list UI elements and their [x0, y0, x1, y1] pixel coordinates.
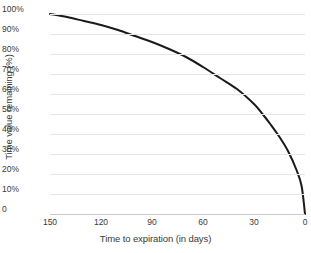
gridline-70: [50, 74, 305, 75]
gridline-60: [50, 94, 305, 95]
x-tick-label-90: 90: [132, 216, 172, 228]
gridline-20: [50, 174, 305, 175]
x-tick-label-60: 60: [183, 216, 223, 228]
gridline-0: [50, 214, 305, 215]
x-axis-tick-labels: 1501209060300: [0, 216, 311, 230]
chart-container: Time value remaining (%) 100%90%80%70%60…: [0, 0, 311, 253]
x-tick-label-0: 0: [285, 216, 311, 228]
x-tick-label-120: 120: [81, 216, 121, 228]
gridline-30: [50, 154, 305, 155]
y-tick-label-40: 40%: [2, 124, 48, 134]
y-tick-label-70: 70%: [2, 64, 48, 74]
y-tick-label-50: 50%: [2, 104, 48, 114]
plot-area: [50, 14, 305, 214]
y-tick-label-30: 30%: [2, 144, 48, 154]
gridline-100: [50, 14, 305, 15]
gridline-90: [50, 34, 305, 35]
y-tick-label-100: 100%: [2, 4, 48, 14]
y-tick-label-90: 90%: [2, 24, 48, 34]
y-tick-label-10: 10%: [2, 184, 48, 194]
x-tick-label-150: 150: [30, 216, 70, 228]
y-tick-label-60: 60%: [2, 84, 48, 94]
gridline-50: [50, 114, 305, 115]
gridline-40: [50, 134, 305, 135]
gridline-10: [50, 194, 305, 195]
y-tick-label-20: 20%: [2, 164, 48, 174]
x-tick-label-30: 30: [234, 216, 274, 228]
x-axis-title: Time to expiration (in days): [0, 233, 311, 244]
y-tick-label-80: 80%: [2, 44, 48, 54]
y-tick-label-0: 0: [2, 204, 48, 214]
gridline-80: [50, 54, 305, 55]
